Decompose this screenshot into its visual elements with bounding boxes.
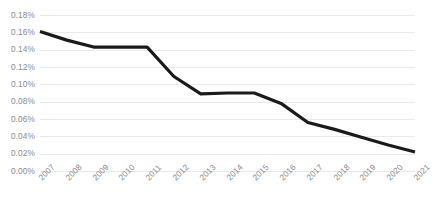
x-axis-tick-label: 2018 — [332, 163, 351, 182]
x-axis-tick-label: 2013 — [198, 163, 217, 182]
x-axis-tick-label: 2011 — [144, 163, 163, 182]
x-axis-tick-label: 2010 — [117, 163, 136, 182]
x-axis-tick-label: 2009 — [91, 163, 110, 182]
x-axis-tick-label: 2008 — [64, 163, 83, 182]
x-axis-tick-label: 2019 — [358, 163, 377, 182]
x-axis-tick-label: 2020 — [385, 163, 404, 182]
x-axis-tick-label: 2021 — [412, 163, 431, 182]
x-axis-tick-label: 2014 — [225, 163, 244, 182]
x-axis-tick-label: 2012 — [171, 163, 190, 182]
x-axis-tick-label: 2007 — [37, 163, 56, 182]
x-axis-tick-label: 2015 — [251, 163, 270, 182]
x-axis-tick-label: 2017 — [305, 163, 324, 182]
x-axis-tick-label: 2016 — [278, 163, 297, 182]
